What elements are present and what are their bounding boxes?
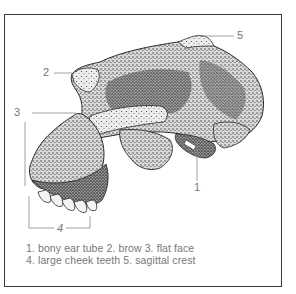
callout-3: 3 [14, 107, 20, 118]
sagittal-crest-shape [178, 35, 214, 48]
callout-2: 2 [43, 67, 49, 78]
bracket-4-right [66, 216, 90, 228]
callout-4: 4 [57, 223, 63, 234]
figure-caption: 1. bony ear tube 2. brow 3. flat face 4.… [26, 242, 196, 266]
callout-1: 1 [194, 182, 200, 193]
caption-line-1: 1. bony ear tube 2. brow 3. flat face [26, 242, 196, 254]
caption-line-2: 4. large cheek teeth 5. sagittal crest [26, 254, 196, 266]
mastoid-shape [120, 129, 173, 169]
callout-5: 5 [237, 30, 243, 41]
